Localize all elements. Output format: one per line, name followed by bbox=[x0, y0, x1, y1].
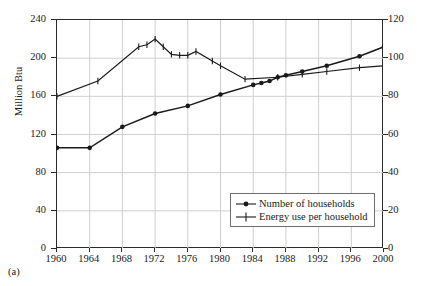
left-axis-title: Million Btu bbox=[13, 32, 24, 152]
axis-tick bbox=[51, 210, 56, 211]
chart-legend: Number of households Energy use per hous… bbox=[230, 193, 375, 227]
axis-tick bbox=[51, 19, 56, 20]
legend-item-households: Number of households bbox=[235, 197, 368, 210]
legend-label-energy: Energy use per household bbox=[257, 211, 368, 223]
axis-tick-label: 40 bbox=[36, 205, 47, 216]
axis-tick bbox=[121, 248, 122, 252]
data-point-marker bbox=[87, 146, 92, 151]
legend-label-households: Number of households bbox=[257, 198, 355, 210]
axis-tick-label: 60 bbox=[388, 129, 399, 140]
axis-tick-label: 120 bbox=[30, 129, 46, 140]
axis-tick bbox=[383, 248, 384, 252]
axis-tick-label: 200 bbox=[30, 52, 46, 63]
figure-caption: (a) bbox=[8, 266, 20, 277]
data-point-marker bbox=[324, 64, 329, 69]
axis-tick-label: 240 bbox=[30, 14, 46, 25]
axis-tick-label: 2000 bbox=[363, 254, 403, 265]
axis-tick-label: 80 bbox=[388, 90, 399, 101]
data-point-marker bbox=[267, 79, 272, 84]
data-point-marker bbox=[120, 125, 125, 130]
data-point-marker bbox=[218, 92, 223, 97]
axis-tick bbox=[154, 248, 155, 252]
axis-tick bbox=[51, 134, 56, 135]
series-line bbox=[57, 47, 383, 148]
axis-tick bbox=[252, 248, 253, 252]
axis-tick-label: 80 bbox=[36, 167, 47, 178]
axis-tick bbox=[51, 95, 56, 96]
axis-tick bbox=[51, 172, 56, 173]
axis-tick bbox=[56, 248, 57, 252]
axis-tick bbox=[187, 248, 188, 252]
data-point-marker bbox=[357, 54, 362, 59]
axis-tick bbox=[89, 248, 90, 252]
axis-tick-label: 0 bbox=[388, 243, 393, 254]
data-point-marker bbox=[153, 111, 158, 116]
axis-tick-label: 20 bbox=[388, 205, 399, 216]
data-point-marker bbox=[251, 83, 256, 88]
filled-circle-marker-icon bbox=[235, 198, 257, 210]
legend-item-energy: Energy use per household bbox=[235, 210, 368, 223]
axis-tick bbox=[350, 248, 351, 252]
axis-tick bbox=[285, 248, 286, 252]
axis-tick-label: 40 bbox=[388, 167, 399, 178]
axis-tick bbox=[220, 248, 221, 252]
axis-tick bbox=[51, 57, 56, 58]
data-point-marker bbox=[259, 81, 264, 86]
plus-marker-icon bbox=[235, 211, 257, 223]
axis-tick-label: 100 bbox=[388, 52, 404, 63]
figure: 04080120160200240 020406080100120 196019… bbox=[0, 0, 439, 286]
data-point-marker bbox=[56, 146, 59, 151]
axis-tick-label: 160 bbox=[30, 90, 46, 101]
axis-tick-label: 120 bbox=[388, 14, 404, 25]
data-point-marker bbox=[186, 104, 191, 109]
axis-tick-label: 0 bbox=[41, 243, 46, 254]
axis-tick bbox=[318, 248, 319, 252]
